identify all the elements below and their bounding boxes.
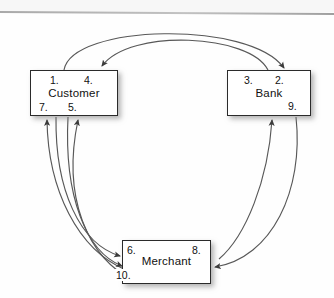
customer-label: Customer — [31, 87, 117, 99]
diagram-canvas: 1. 4. Customer 7. 5. 3. 2. Bank 9. 6. 8.… — [0, 0, 334, 298]
customer-step-5: 5. — [68, 101, 77, 113]
bank-step-3: 3. — [244, 74, 253, 86]
bank-step-9: 9. — [288, 100, 297, 112]
bank-step-2: 2. — [275, 74, 284, 86]
customer-step-4: 4. — [84, 74, 93, 86]
node-bank[interactable]: 3. 2. Bank 9. — [227, 70, 311, 116]
merchant-label: Merchant — [123, 255, 210, 267]
edge-merchant-to-customer-a — [47, 120, 126, 270]
node-customer[interactable]: 1. 4. Customer 7. 5. — [30, 70, 118, 116]
edge-bank-to-merchant — [215, 117, 297, 267]
edge-merchant-to-bank — [219, 120, 272, 259]
bank-label: Bank — [228, 87, 310, 99]
edge-bank-to-customer — [102, 40, 268, 70]
customer-step-7: 7. — [39, 101, 48, 113]
node-merchant[interactable]: 6. 8. Merchant 10. — [122, 240, 211, 284]
edge-customer-to-merchant-b — [68, 117, 122, 266]
merchant-step-10: 10. — [115, 269, 132, 281]
customer-step-1: 1. — [50, 74, 59, 86]
edge-customer-to-bank — [64, 34, 284, 70]
